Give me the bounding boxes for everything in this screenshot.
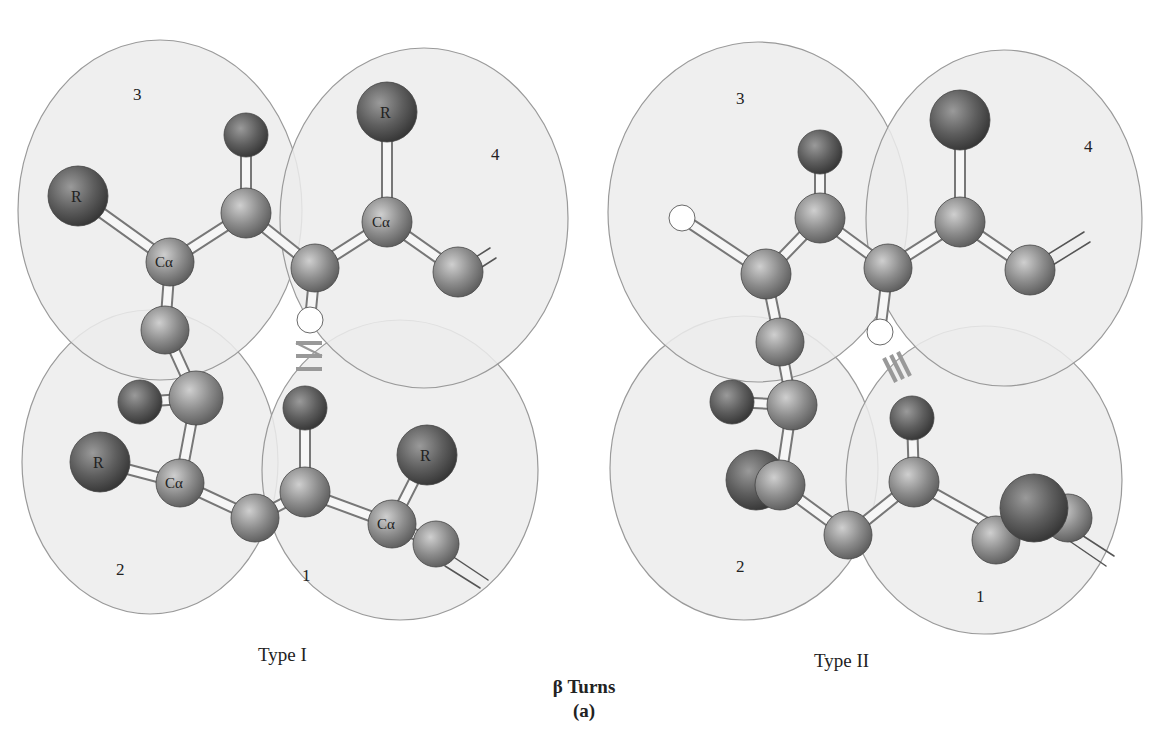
alpha-carbon-atom (935, 197, 985, 247)
nitrogen-atom (291, 244, 339, 292)
alpha-carbon-label: Cα (165, 475, 183, 491)
carbonyl-oxygen-atom (224, 113, 268, 157)
type-2-caption: Type II (814, 650, 869, 672)
nitrogen-atom (824, 511, 872, 559)
residue-label-3: 3 (133, 85, 142, 104)
residue-label-4: 4 (491, 145, 500, 164)
type-1-turn-diagram: 3 4 2 1 R Cα R Cα R Cα R Cα (0, 0, 584, 640)
residue-label-1: 1 (976, 587, 985, 606)
alpha-carbon-atom (741, 249, 791, 299)
carbonyl-oxygen-atom (710, 380, 754, 424)
type-1-turn-panel: 3 4 2 1 R Cα R Cα R Cα R Cα (0, 0, 584, 640)
carbonyl-carbon-atom (889, 457, 939, 507)
alpha-carbon-label: Cα (155, 254, 173, 270)
nitrogen-atom (231, 494, 279, 542)
type-2-turn-diagram: 3 4 2 1 (584, 0, 1168, 640)
carbonyl-carbon-atom (795, 193, 845, 243)
r-group-atom (930, 90, 990, 150)
carbonyl-carbon-atom (433, 247, 483, 297)
residue-circle-4 (866, 50, 1142, 386)
nitrogen-atom (169, 371, 223, 425)
carbonyl-carbon-atom (756, 318, 804, 366)
residue-circle-4 (280, 48, 568, 388)
residue-circles (18, 40, 568, 620)
carbonyl-carbon-atom (1005, 245, 1055, 295)
residue-label-2: 2 (116, 560, 125, 579)
carbonyl-oxygen-atom (798, 130, 842, 174)
alpha-carbon-label: Cα (372, 214, 390, 230)
r-group-label: R (93, 454, 104, 471)
carbonyl-oxygen-atom (890, 396, 934, 440)
nitrogen-atom (864, 244, 912, 292)
carbonyl-carbon-atom (221, 188, 271, 238)
alpha-carbon-atom (755, 460, 805, 510)
figure-sublabel: (a) (0, 700, 1168, 722)
residue-label-1: 1 (302, 566, 311, 585)
residue-circle-3 (608, 42, 908, 382)
r-group-label: R (71, 188, 82, 205)
nitrogen-atom (767, 380, 817, 430)
type-2-turn-panel: 3 4 2 1 (584, 0, 1168, 640)
nitrogen-atom (413, 521, 459, 567)
residue-label-4: 4 (1084, 137, 1093, 156)
residue-label-2: 2 (736, 557, 745, 576)
figure-title: β Turns (0, 676, 1168, 698)
carbonyl-oxygen-atom (283, 386, 327, 430)
hydrogen-atom (867, 319, 893, 345)
alpha-carbon-label: Cα (377, 516, 395, 532)
r-group-label: R (420, 447, 431, 464)
r-group-label: R (380, 104, 391, 121)
hydrogen-atom (297, 307, 323, 333)
hydrogen-atom (669, 205, 695, 231)
carbonyl-carbon-atom (280, 467, 330, 517)
carbonyl-carbon-atom (141, 306, 189, 354)
r-group-atom (1000, 474, 1068, 542)
carbonyl-oxygen-atom (118, 380, 162, 424)
residue-label-3: 3 (736, 89, 745, 108)
type-1-caption: Type I (258, 644, 307, 666)
